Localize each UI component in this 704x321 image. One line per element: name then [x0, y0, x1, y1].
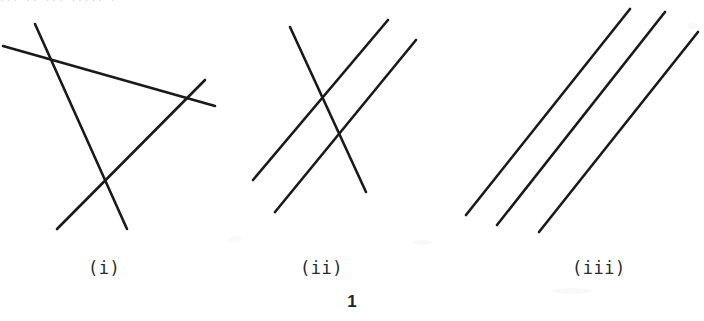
figure-iii-line-b	[497, 12, 665, 225]
page-number: 1	[0, 292, 704, 312]
figure-i-line-b	[35, 24, 127, 229]
figure-iii-lines	[466, 9, 698, 232]
figure-iii-line-a	[466, 9, 630, 215]
figure-i-line-a	[3, 46, 215, 106]
figure-row	[0, 0, 704, 250]
figure-ii-caption: (ii)	[300, 258, 343, 278]
figure-ii-line-a	[290, 27, 366, 192]
figures-canvas	[0, 0, 704, 250]
figure-ii-lines	[253, 20, 416, 212]
figure-i-caption: (i)	[88, 258, 120, 278]
figure-i-line-c	[57, 80, 205, 229]
scanned-page: ··· ·· ··· ····· · (i) (ii)	[0, 0, 704, 321]
figure-i-lines	[3, 24, 215, 229]
figure-iii-line-c	[539, 32, 698, 232]
caption-row: (i) (ii) (iii)	[0, 258, 704, 288]
figure-ii-line-c	[275, 40, 416, 212]
figure-iii-caption: (iii)	[572, 258, 626, 278]
